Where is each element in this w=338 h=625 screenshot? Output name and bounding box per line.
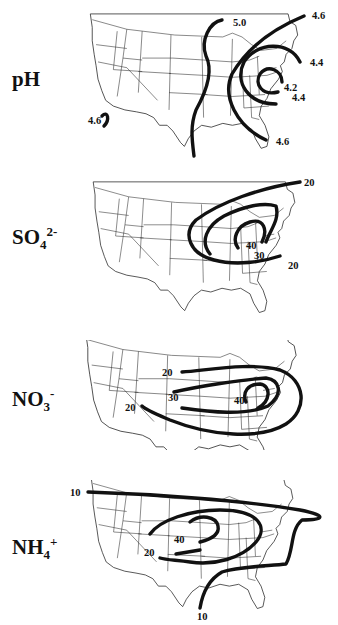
contour-label: 20 [162, 367, 173, 378]
contour-label: 4.6 [276, 136, 289, 147]
panel-so4: SO42- 20 40 30 20 [0, 176, 338, 322]
contour-line [176, 550, 200, 554]
contour-line [258, 69, 282, 93]
contour-label: 40 [234, 395, 245, 406]
contour-label: 4.4 [310, 57, 324, 68]
contour-line [102, 114, 108, 126]
us-map-no3: 20 30 20 40 [0, 340, 338, 450]
contour-line [192, 20, 222, 156]
contour-label: 5.0 [233, 17, 246, 28]
contour-label: 10 [70, 487, 81, 498]
contour-label: 30 [254, 250, 265, 261]
contour-label: 30 [168, 392, 179, 403]
contour-label: 20 [144, 547, 155, 558]
us-map-so4: 20 40 30 20 [0, 176, 338, 322]
panel-ph: pH 5.0 4.6 4.4 4.2 4.4 4.6 4.6 5.0 [0, 0, 338, 160]
contour-label: 4.6 [88, 115, 101, 126]
panel-no3: NO3- 20 30 20 40 [0, 340, 338, 450]
contour-label: 20 [304, 177, 315, 188]
contour-label: 10 [197, 611, 208, 622]
contour-label: 4.6 [312, 10, 325, 21]
us-map-nh4: 10 40 20 10 [0, 480, 338, 625]
contour-label: 20 [288, 260, 299, 271]
contour-label: 4.4 [292, 92, 306, 103]
contour-label: 20 [125, 402, 136, 413]
us-map-ph: 5.0 4.6 4.4 4.2 4.4 4.6 4.6 5.0 [0, 0, 338, 160]
contour-label: 40 [174, 534, 185, 545]
panel-nh4: NH4+ 10 40 20 10 [0, 480, 338, 625]
